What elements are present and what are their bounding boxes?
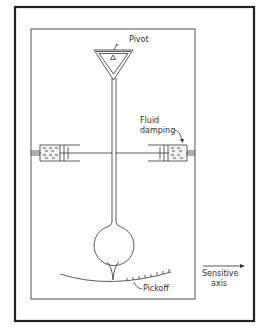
fluid-damping-label-line2: damping: [140, 126, 175, 135]
fluid-damping-label-line1: Fluid: [140, 116, 159, 125]
pivot-triangle: [94, 50, 133, 80]
pickoff-leader: [134, 282, 142, 289]
accelerometer-diagram: Pivot Fluid damping: [0, 0, 267, 331]
sensitive-axis-arrow-icon: [203, 264, 245, 268]
pendulum-stem: [112, 78, 116, 222]
pickoff-label: Pickoff: [143, 284, 170, 293]
sensitive-axis-label-line1: Sensitive: [202, 269, 239, 278]
sensitive-axis-label-line2: axis: [211, 279, 227, 288]
leader-arrowhead-icon: [180, 139, 184, 143]
pickoff-scale: [60, 269, 171, 282]
pivot-label: Pivot: [129, 35, 149, 44]
inner-case: [31, 29, 195, 299]
pendulum-mass: [94, 222, 134, 280]
